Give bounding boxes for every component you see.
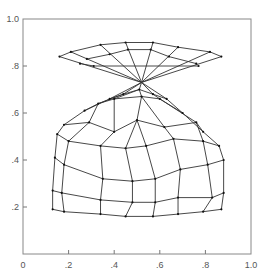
mesh-node bbox=[113, 131, 115, 133]
mesh-node bbox=[122, 93, 124, 95]
mesh-node bbox=[109, 98, 111, 100]
mesh-node bbox=[99, 199, 101, 201]
mesh-node bbox=[220, 208, 222, 210]
lower-dome-column bbox=[164, 127, 173, 139]
mesh-node bbox=[99, 213, 101, 215]
mesh-node bbox=[83, 110, 85, 112]
x-tick-label: .8 bbox=[202, 260, 210, 270]
mesh-node bbox=[63, 211, 65, 213]
mesh-node bbox=[125, 41, 127, 43]
mesh-node bbox=[152, 41, 154, 43]
mesh-node bbox=[182, 112, 184, 114]
mesh-node bbox=[88, 121, 90, 123]
mesh-node bbox=[63, 164, 65, 166]
mesh-node bbox=[145, 145, 147, 147]
mesh-node bbox=[163, 126, 165, 128]
lower-dome-column bbox=[53, 158, 55, 191]
lower-dome-column bbox=[101, 132, 115, 146]
upper-fan-spoke bbox=[101, 45, 142, 83]
mesh-node bbox=[125, 215, 127, 217]
mesh-node bbox=[223, 192, 225, 194]
y-tick-label: .4 bbox=[11, 155, 19, 165]
mesh-node bbox=[125, 147, 127, 149]
mesh-node bbox=[97, 103, 99, 105]
mesh-node bbox=[223, 159, 225, 161]
y-tick-label: 1.0 bbox=[6, 14, 19, 24]
lower-dome-column bbox=[69, 122, 90, 141]
mesh-node bbox=[127, 48, 129, 50]
lower-dome-column bbox=[219, 146, 224, 160]
mesh-node bbox=[102, 178, 104, 180]
mesh-node bbox=[172, 138, 174, 140]
y-axis-ticks: .2.4.6.81.0 bbox=[6, 14, 27, 212]
y-tick-label: .2 bbox=[11, 202, 19, 212]
lower-dome-column bbox=[64, 111, 85, 125]
mesh-node bbox=[52, 208, 54, 210]
lower-dome-column bbox=[208, 165, 213, 198]
lower-dome-column bbox=[101, 146, 103, 179]
mesh-node bbox=[179, 168, 181, 170]
mesh-node bbox=[99, 44, 101, 46]
lower-dome-column bbox=[221, 193, 223, 209]
x-tick-label: 0 bbox=[20, 260, 25, 270]
lower-dome-column bbox=[137, 97, 142, 121]
mesh-node bbox=[63, 124, 65, 126]
mesh-lines bbox=[53, 43, 224, 217]
mesh-node bbox=[202, 211, 204, 213]
mesh-node bbox=[159, 98, 161, 100]
upper-fan-spoke bbox=[142, 57, 222, 83]
dome-spoke bbox=[142, 82, 167, 98]
mesh-node bbox=[152, 215, 154, 217]
mesh-node bbox=[150, 48, 152, 50]
y-tick-label: .6 bbox=[11, 108, 19, 118]
mesh-node bbox=[209, 51, 211, 53]
mesh-node bbox=[136, 119, 138, 121]
lower-dome-column bbox=[167, 99, 183, 113]
lower-dome-column bbox=[160, 99, 196, 123]
lower-dome-row bbox=[55, 158, 224, 182]
mesh-node bbox=[195, 121, 197, 123]
mesh-node bbox=[152, 93, 154, 95]
mesh-node bbox=[154, 178, 156, 180]
x-tick-label: .4 bbox=[110, 260, 118, 270]
lower-dome-column bbox=[126, 120, 137, 148]
mesh-node bbox=[177, 213, 179, 215]
mesh-node bbox=[79, 63, 81, 65]
lower-dome-row bbox=[53, 209, 222, 216]
lower-dome-column bbox=[203, 141, 208, 165]
mesh-node bbox=[207, 164, 209, 166]
lower-dome-row bbox=[57, 134, 219, 148]
lower-dome-column bbox=[126, 202, 133, 216]
lower-dome-column bbox=[98, 94, 123, 103]
mesh-node bbox=[154, 201, 156, 203]
lower-dome-column bbox=[55, 134, 57, 158]
mesh-node bbox=[70, 51, 72, 53]
x-tick-label: 1.0 bbox=[245, 260, 258, 270]
lower-dome-column bbox=[178, 169, 180, 197]
lower-dome-column bbox=[153, 202, 155, 216]
mesh-node bbox=[202, 140, 204, 142]
mesh-node bbox=[197, 65, 199, 67]
mesh-node bbox=[131, 180, 133, 182]
lower-dome-row bbox=[85, 97, 183, 114]
lower-dome-column bbox=[203, 198, 212, 212]
upper-fan-spoke bbox=[59, 57, 141, 83]
mesh-node bbox=[61, 192, 63, 194]
mesh-node bbox=[68, 140, 70, 142]
mesh-node bbox=[109, 53, 111, 55]
upper-fan-row bbox=[87, 50, 197, 64]
lower-dome-column bbox=[146, 146, 155, 179]
mesh-node bbox=[131, 201, 133, 203]
mesh-node bbox=[140, 95, 142, 97]
mesh-node bbox=[177, 197, 179, 199]
mesh-node bbox=[166, 98, 168, 100]
mesh-node bbox=[52, 189, 54, 191]
lower-dome-column bbox=[183, 113, 204, 132]
mesh-node bbox=[177, 46, 179, 48]
mesh-node bbox=[220, 56, 222, 58]
mesh-node bbox=[99, 145, 101, 147]
mesh-node bbox=[195, 63, 197, 65]
x-axis-ticks: 0.2.4.6.81.0 bbox=[20, 250, 257, 270]
lower-dome-column bbox=[57, 125, 64, 134]
mesh-node bbox=[138, 88, 140, 90]
